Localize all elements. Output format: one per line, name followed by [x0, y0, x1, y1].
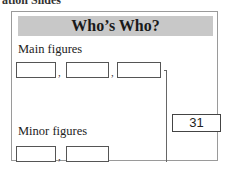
result-box: 31 — [172, 114, 221, 132]
main-figure-input-2[interactable] — [66, 62, 109, 78]
card-title: Who’s Who? — [18, 16, 213, 36]
whos-who-card: Who’s Who? Main figures , , 31 Minor fig… — [11, 11, 218, 161]
brace-top — [164, 70, 167, 72]
main-figures-label: Main figures — [18, 42, 82, 57]
brace-connector — [166, 70, 167, 162]
page-heading-clipped: ation Slides — [2, 0, 61, 8]
minor-figures-label: Minor figures — [18, 124, 87, 139]
separator: , — [58, 150, 61, 162]
separator: , — [58, 66, 61, 78]
separator: , — [111, 66, 114, 78]
minor-figure-input-2[interactable] — [66, 146, 109, 162]
main-figure-input-1[interactable] — [16, 62, 56, 78]
minor-figure-input-1[interactable] — [16, 146, 56, 162]
main-figure-input-3[interactable] — [117, 62, 161, 78]
